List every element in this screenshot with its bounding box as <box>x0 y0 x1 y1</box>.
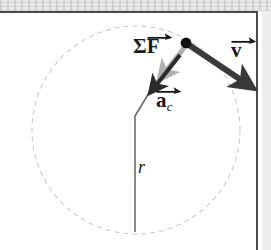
acceleration-symbol: a <box>156 88 167 112</box>
sigma-symbol: Σ <box>133 34 147 58</box>
centripetal-acceleration-vector-arrow <box>157 55 180 84</box>
particle-dot <box>181 38 192 49</box>
centripetal-acceleration-label: ac <box>156 90 173 113</box>
velocity-label: v <box>231 40 242 61</box>
net-force-label: ΣF <box>133 36 160 57</box>
acceleration-subscript: c <box>167 99 173 114</box>
velocity-symbol: v <box>231 38 242 62</box>
radius-label: r <box>138 158 145 176</box>
force-symbol: F <box>147 34 160 58</box>
circular-motion-figure: ΣF v ac r <box>0 0 271 250</box>
